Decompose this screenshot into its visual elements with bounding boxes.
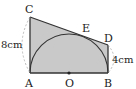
label-e: E: [82, 22, 90, 35]
label-bd-length: 4cm: [112, 54, 134, 65]
label-a: A: [24, 77, 34, 89]
label-o: O: [65, 77, 74, 89]
label-b: B: [104, 77, 112, 89]
center-point-o: [67, 71, 70, 74]
label-ac-length: 8cm: [1, 39, 23, 50]
label-d: D: [104, 32, 113, 45]
label-c: C: [25, 3, 33, 16]
dimension-arc-ac: [22, 17, 30, 73]
geometry-figure: C E D A O B 8cm 4cm: [0, 0, 136, 89]
